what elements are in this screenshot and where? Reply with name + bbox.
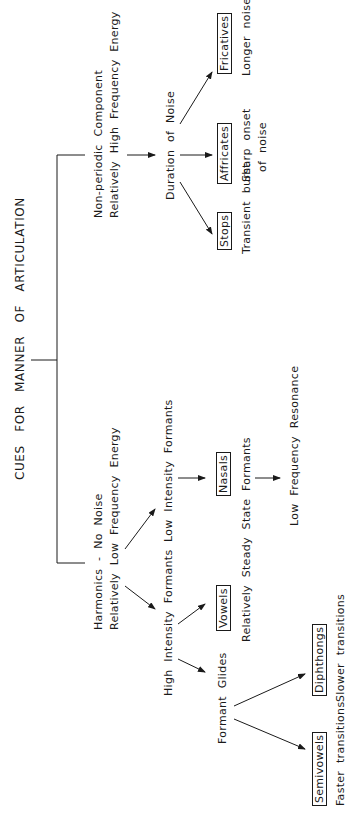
category-semivowels: Semivowels (312, 732, 327, 806)
low-intensity-label: Low Intensity Formants (162, 399, 175, 542)
vowels-cue: Relatively Steady State Formants (240, 437, 253, 642)
affricates-cue-line2: of noise (256, 122, 269, 172)
category-stops: Stops (217, 212, 232, 250)
diphthongs-cue: Slower transitions (334, 594, 347, 702)
manner-of-articulation-diagram: CUES FOR MANNER OF ARTICULATION Non-peri… (0, 0, 356, 814)
formant-glides-label: Formant Glides (216, 652, 229, 744)
category-vowels: Vowels (216, 585, 231, 631)
duration-of-noise-label: Duration of Noise (164, 91, 177, 200)
category-diphthongs: Diphthongs (312, 624, 327, 696)
non-periodic-sublabel: Relatively High Frequency Energy (108, 11, 121, 218)
affricates-cue-line1: Sharp onset (240, 108, 253, 182)
category-nasals: Nasals (216, 452, 231, 496)
diagram-title: CUES FOR MANNER OF ARTICULATION (14, 197, 27, 480)
high-intensity-label: High Intensity Formants (162, 549, 175, 696)
connector-lines (0, 0, 356, 814)
harmonics-label: Harmonics - No Noise (92, 493, 105, 630)
harmonics-sublabel: Relatively Low Frequency Energy (108, 427, 121, 630)
fricatives-cue: Longer noise (240, 0, 253, 76)
nasals-cue: Low Frequency Resonance (288, 366, 301, 526)
category-fricatives: Fricatives (217, 13, 232, 74)
category-affricates: Affricates (217, 123, 232, 184)
semivowels-cue: Faster transitions (334, 702, 347, 806)
non-periodic-label: Non-periodic Component (92, 70, 105, 218)
